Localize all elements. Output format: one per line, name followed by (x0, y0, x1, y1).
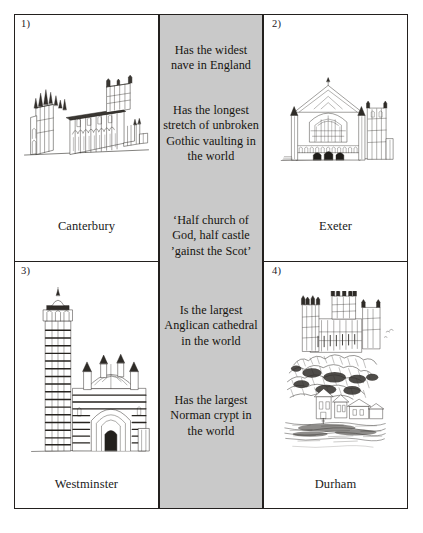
caption-westminster: Westminster (15, 472, 158, 509)
cell-number-1: 1) (21, 19, 30, 30)
durham-cathedral-drawing (264, 262, 407, 472)
cell-number-3: 3) (21, 266, 30, 277)
exercise-frame: 1) (14, 14, 408, 509)
caption-canterbury: Canterbury (15, 214, 158, 261)
facts-column: Has the widest nave in England Has the l… (159, 15, 263, 508)
right-picture-column: 2) (263, 15, 407, 508)
cell-number-2: 2) (272, 19, 281, 30)
caption-exeter: Exeter (264, 214, 407, 261)
cell-durham[interactable]: 4) (263, 262, 407, 509)
fact-widest-nave: Has the widest nave in England (160, 43, 262, 74)
fact-largest-anglican-cathedral: Is the largest Anglican cathedral in the… (160, 303, 262, 349)
canterbury-cathedral-drawing (15, 15, 158, 214)
cell-westminster[interactable]: 3) (15, 262, 159, 509)
fact-half-church-half-castle: ‘Half church of God, half castle ’gainst… (160, 213, 262, 259)
cell-number-4: 4) (272, 266, 281, 277)
caption-durham: Durham (264, 472, 407, 509)
exeter-cathedral-drawing (264, 15, 407, 214)
fact-gothic-vaulting: Has the longest stretch of unbroken Goth… (160, 103, 262, 165)
westminster-cathedral-drawing (15, 262, 158, 472)
cell-exeter[interactable]: 2) (263, 15, 407, 262)
left-picture-column: 1) (15, 15, 159, 508)
cell-canterbury[interactable]: 1) (15, 15, 159, 262)
fact-largest-norman-crypt: Has the largest Norman crypt in the worl… (160, 393, 262, 439)
